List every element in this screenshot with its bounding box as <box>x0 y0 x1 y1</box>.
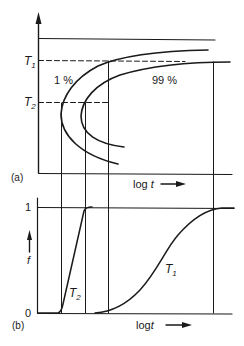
t2-axis-label: T2 <box>24 95 36 111</box>
panel-a-x-axis <box>39 174 233 175</box>
curve-t1-label: T1 <box>165 262 177 278</box>
f-equals-1-line <box>38 208 235 209</box>
curve-1-percent-label: 1 % <box>54 74 73 86</box>
panel-b <box>27 198 234 328</box>
panel-a <box>36 12 233 175</box>
panel-b-x-axis-label: logt <box>136 319 155 331</box>
y-tick-0: 0 <box>25 307 31 319</box>
panel-b-x-arrow-icon <box>182 322 192 328</box>
panel-b-x-axis <box>38 314 233 315</box>
panel-b-label: (b) <box>12 320 24 331</box>
y-tick-1: 1 <box>25 201 31 213</box>
curve-t2-label: T2 <box>69 286 81 302</box>
panel-a-label: (a) <box>11 172 23 183</box>
t1-axis-label: T1 <box>24 54 36 70</box>
curve-t2 <box>38 207 92 313</box>
ttt-diagram: T1 T2 1 % 99 % (a) log t 1 f 0 (b) T2 T1… <box>0 0 244 346</box>
panel-a-y-arrow-icon <box>36 12 42 24</box>
f-axis-label: f <box>27 254 31 266</box>
panel-a-x-axis-label: log t <box>133 178 155 190</box>
panel-a-x-arrow-icon <box>176 181 186 187</box>
curve-99-percent-label: 99 % <box>152 74 177 86</box>
panel-a-top-line <box>39 39 216 41</box>
f-arrow-icon <box>27 230 32 240</box>
